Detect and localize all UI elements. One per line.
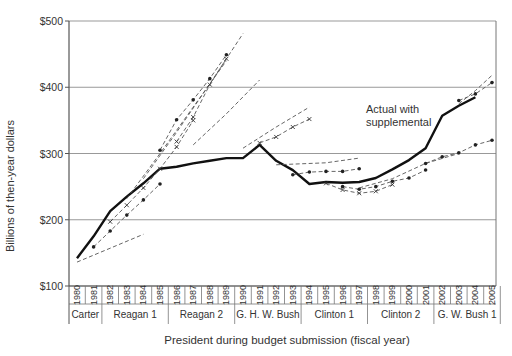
dot-marker xyxy=(341,170,345,174)
x-tick-label: 1985 xyxy=(155,285,165,305)
x-marker xyxy=(374,189,378,193)
x-tick-label: 2003 xyxy=(454,285,464,305)
dot-marker xyxy=(158,148,162,152)
x-marker xyxy=(141,186,145,190)
dot-marker xyxy=(142,198,146,202)
dot-marker xyxy=(474,143,478,147)
x-marker xyxy=(224,57,228,61)
dot-marker xyxy=(308,170,312,174)
dot-marker xyxy=(108,229,112,233)
dot-marker xyxy=(440,155,444,159)
president-group-label: G. H. W. Bush xyxy=(236,309,299,320)
annotation-line2: supplemental xyxy=(366,116,431,128)
dot-marker xyxy=(175,118,179,122)
y-tick-label: $300 xyxy=(40,148,64,160)
dot-marker xyxy=(92,245,96,249)
x-tick-label: 1986 xyxy=(172,285,182,305)
dot-marker xyxy=(391,180,395,184)
dot-marker xyxy=(208,77,212,81)
x-tick-label: 1995 xyxy=(321,285,331,305)
projection-line xyxy=(193,80,259,145)
x-marker xyxy=(108,220,112,224)
dot-marker xyxy=(357,167,361,171)
x-tick-label: 2005 xyxy=(487,285,497,305)
dot-marker xyxy=(341,185,345,189)
x-tick-label: 1989 xyxy=(221,285,231,305)
x-axis: 1980198119821983198419851986198719881989… xyxy=(69,285,500,324)
x-axis-label: President during budget submission (fisc… xyxy=(164,334,410,346)
x-tick-label: 1987 xyxy=(188,285,198,305)
dot-marker xyxy=(191,98,195,102)
y-tick-label: $500 xyxy=(40,15,64,27)
dot-marker xyxy=(158,182,162,186)
dot-marker xyxy=(374,185,378,189)
president-group-label: Clinton 2 xyxy=(381,309,421,320)
dot-marker xyxy=(407,176,411,180)
projection-line xyxy=(243,107,309,148)
defense-budget-line-chart: $100$200$300$400$500 1980198119821983198… xyxy=(0,0,512,356)
x-marker xyxy=(208,83,212,87)
y-tick-label: $100 xyxy=(40,280,64,292)
projection-line xyxy=(160,55,226,150)
dot-marker xyxy=(457,151,461,155)
dot-marker xyxy=(457,99,461,103)
annotation-line1: Actual with xyxy=(366,103,419,115)
x-marker xyxy=(175,140,179,144)
x-marker xyxy=(390,183,394,187)
president-group-label: Reagan 2 xyxy=(180,309,224,320)
x-tick-label: 1980 xyxy=(72,285,82,305)
grid-lines xyxy=(69,21,496,286)
dot-marker xyxy=(490,138,494,142)
x-tick-label: 1994 xyxy=(304,285,314,305)
president-group-label: Carter xyxy=(71,309,99,320)
x-tick-label: 1981 xyxy=(89,285,99,305)
y-axis-label: Billions of then-year dollars xyxy=(4,119,16,252)
dot-marker xyxy=(324,170,328,174)
dot-marker xyxy=(424,162,428,166)
x-marker xyxy=(125,203,129,207)
x-tick-label: 1988 xyxy=(205,285,215,305)
x-marker xyxy=(291,125,295,129)
dot-marker xyxy=(125,213,129,217)
x-marker xyxy=(175,145,179,149)
x-tick-label: 1999 xyxy=(387,285,397,305)
x-tick-label: 1998 xyxy=(371,285,381,305)
president-group-label: G. W. Bush 1 xyxy=(438,309,497,320)
x-tick-label: 1996 xyxy=(338,285,348,305)
x-tick-label: 1993 xyxy=(288,285,298,305)
x-tick-label: 2001 xyxy=(421,285,431,305)
projection-line xyxy=(77,234,143,262)
dot-marker xyxy=(291,173,295,177)
projection-line xyxy=(276,158,359,165)
data-series xyxy=(77,34,494,263)
x-tick-label: 1997 xyxy=(354,285,364,305)
x-tick-label: 1991 xyxy=(255,285,265,305)
x-tick-label: 1984 xyxy=(138,285,148,305)
x-marker xyxy=(191,115,195,119)
dot-marker xyxy=(424,168,428,172)
x-tick-label: 2004 xyxy=(470,285,480,305)
y-tick-label: $200 xyxy=(40,214,64,226)
projection-line xyxy=(459,75,492,104)
dot-marker xyxy=(490,81,494,85)
x-tick-label: 1990 xyxy=(238,285,248,305)
president-group-label: Reagan 1 xyxy=(113,309,157,320)
y-tick-label: $400 xyxy=(40,81,64,93)
president-group-label: Clinton 1 xyxy=(315,309,355,320)
dot-marker xyxy=(225,53,229,57)
projection-line xyxy=(260,119,310,143)
x-tick-label: 1983 xyxy=(122,285,132,305)
dot-marker xyxy=(474,92,478,96)
x-tick-label: 2000 xyxy=(404,285,414,305)
x-marker xyxy=(341,188,345,192)
x-tick-label: 2002 xyxy=(437,285,447,305)
x-tick-label: 1982 xyxy=(105,285,115,305)
x-tick-label: 1992 xyxy=(271,285,281,305)
x-marker xyxy=(307,117,311,121)
